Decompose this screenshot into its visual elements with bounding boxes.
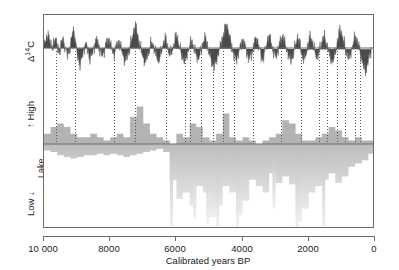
plot-layers [44,15,373,227]
low-label-text: Low [25,199,36,216]
x-axis-tick [175,236,176,241]
high-label-text: High [25,101,36,121]
x-axis-title: Calibrated years BP [166,255,250,266]
x-axis-tick-label: 0 [371,243,376,254]
x-axis-tick-label: 6000 [164,243,186,254]
y-axis-label-d14c: Δ14C [24,41,36,62]
x-axis-tick [109,236,110,241]
arrow-up-icon: ↑ [25,123,36,128]
x-axis-tick-label: 4000 [231,243,253,254]
isotope-mass-number: 14 [24,48,31,56]
x-axis-tick-label: 2000 [297,243,319,254]
x-axis-line [43,236,374,237]
x-axis-tick-label: 10 000 [28,243,58,254]
arrow-down-icon: ↓ [25,191,36,196]
plot-area [43,14,374,228]
x-axis-tick [308,236,309,241]
panel-baselines [44,15,373,227]
x-axis-tick [374,236,375,241]
y-axis-label-high: ↑ High [25,101,36,128]
x-axis-tick-label: 8000 [98,243,120,254]
x-axis-tick [43,236,44,241]
figure-root: Δ14C ↑ High Lake level Low ↓ 10 00080006… [0,0,399,270]
x-axis-tick [242,236,243,241]
carbon-symbol: C [25,41,36,48]
delta-symbol: Δ [25,56,36,62]
y-axis-label-low: Low ↓ [25,191,36,216]
